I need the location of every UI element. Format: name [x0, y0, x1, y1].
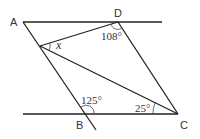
angle-C-label: 25°	[135, 102, 150, 114]
line-EC	[40, 46, 178, 114]
angle-x-label: x	[55, 38, 62, 52]
label-A: A	[10, 16, 18, 28]
label-B: B	[76, 119, 83, 131]
label-D: D	[114, 7, 122, 19]
geometry-diagram: A D B C x 108° 125° 25°	[0, 0, 200, 139]
angle-D-label: 108°	[101, 30, 122, 42]
line-DC	[118, 22, 178, 114]
label-C: C	[180, 119, 188, 131]
angle-x-arc	[49, 43, 50, 50]
angle-C-arc	[153, 103, 155, 114]
angle-B-label: 125°	[81, 94, 102, 106]
